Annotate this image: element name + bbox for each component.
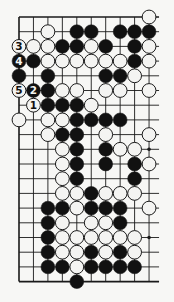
white-stone — [99, 128, 113, 142]
white-stone-move-5: 5 — [12, 84, 26, 98]
white-stone — [55, 113, 69, 127]
black-stone — [41, 98, 55, 112]
black-stone — [12, 69, 26, 83]
white-stone — [142, 54, 156, 68]
white-stone — [70, 187, 84, 201]
white-stone — [55, 187, 69, 201]
black-stone — [128, 172, 142, 186]
black-stone — [128, 40, 142, 54]
black-stone — [113, 113, 127, 127]
move-number: 2 — [30, 84, 37, 96]
white-stone — [142, 201, 156, 215]
black-stone — [41, 69, 55, 83]
black-stone — [99, 201, 113, 215]
white-stone — [41, 25, 55, 39]
black-stone — [41, 231, 55, 245]
white-stone — [128, 69, 142, 83]
black-stone — [84, 187, 98, 201]
move-number: 1 — [30, 99, 37, 111]
go-board: 34521 — [0, 0, 174, 302]
white-stone — [41, 40, 55, 54]
black-stone — [113, 216, 127, 230]
black-stone — [99, 69, 113, 83]
white-stone — [99, 187, 113, 201]
white-stone — [70, 201, 84, 215]
black-stone — [99, 260, 113, 274]
go-board-diagram: 34521 — [0, 0, 174, 302]
black-stone — [113, 201, 127, 215]
black-stone — [128, 25, 142, 39]
black-stone — [99, 113, 113, 127]
white-stone — [41, 128, 55, 142]
black-stone — [113, 260, 127, 274]
white-stone — [142, 128, 156, 142]
black-stone — [70, 98, 84, 112]
black-stone — [99, 157, 113, 171]
black-stone — [70, 25, 84, 39]
white-stone — [84, 98, 98, 112]
white-stone — [70, 245, 84, 259]
white-stone — [55, 142, 69, 156]
black-stone — [99, 40, 113, 54]
black-stone — [84, 260, 98, 274]
white-stone — [55, 216, 69, 230]
black-stone — [70, 128, 84, 142]
black-stone — [128, 54, 142, 68]
white-stone — [84, 231, 98, 245]
white-stone — [99, 231, 113, 245]
black-stone — [41, 201, 55, 215]
move-number: 5 — [15, 84, 22, 96]
black-stone — [70, 157, 84, 171]
white-stone — [99, 84, 113, 98]
black-stone — [84, 201, 98, 215]
white-stone — [113, 187, 127, 201]
star-point — [147, 148, 151, 152]
white-stone — [84, 54, 98, 68]
white-stone — [84, 216, 98, 230]
black-stone — [27, 54, 41, 68]
black-stone — [84, 245, 98, 259]
white-stone — [84, 40, 98, 54]
white-stone — [128, 231, 142, 245]
white-stone — [99, 245, 113, 259]
black-stone — [128, 157, 142, 171]
black-stone — [70, 275, 84, 289]
black-stone — [70, 172, 84, 186]
white-stone — [70, 84, 84, 98]
white-stone — [113, 142, 127, 156]
white-stone — [27, 40, 41, 54]
white-stone-move-1: 1 — [27, 98, 41, 112]
white-stone — [142, 10, 156, 24]
white-stone — [142, 84, 156, 98]
white-stone — [41, 54, 55, 68]
white-stone — [99, 216, 113, 230]
black-stone — [55, 128, 69, 142]
white-stone-move-3: 3 — [12, 40, 26, 54]
white-stone — [55, 231, 69, 245]
white-stone — [55, 172, 69, 186]
black-stone — [55, 260, 69, 274]
move-number: 4 — [15, 55, 22, 67]
white-stone — [12, 113, 26, 127]
white-stone — [70, 54, 84, 68]
white-stone — [128, 245, 142, 259]
black-stone — [70, 40, 84, 54]
black-stone — [113, 25, 127, 39]
black-stone — [55, 40, 69, 54]
black-stone — [99, 142, 113, 156]
black-stone-move-4: 4 — [12, 54, 26, 68]
white-stone — [128, 142, 142, 156]
white-stone — [41, 113, 55, 127]
black-stone — [55, 201, 69, 215]
white-stone — [55, 157, 69, 171]
black-stone-move-2: 2 — [27, 84, 41, 98]
black-stone — [113, 245, 127, 259]
black-stone — [41, 216, 55, 230]
white-stone — [55, 245, 69, 259]
black-stone — [113, 69, 127, 83]
white-stone — [99, 54, 113, 68]
white-stone — [70, 260, 84, 274]
white-stone — [113, 54, 127, 68]
star-point — [147, 236, 151, 240]
black-stone — [142, 25, 156, 39]
